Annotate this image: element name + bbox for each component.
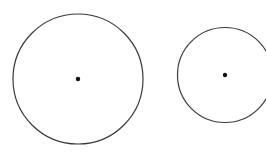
small-circle xyxy=(178,28,267,123)
large-circle-center-dot xyxy=(76,77,80,81)
diagram-canvas xyxy=(0,0,266,157)
small-circle-center-dot xyxy=(223,73,227,77)
large-circle-group xyxy=(13,14,143,144)
small-circle-group xyxy=(178,28,267,123)
